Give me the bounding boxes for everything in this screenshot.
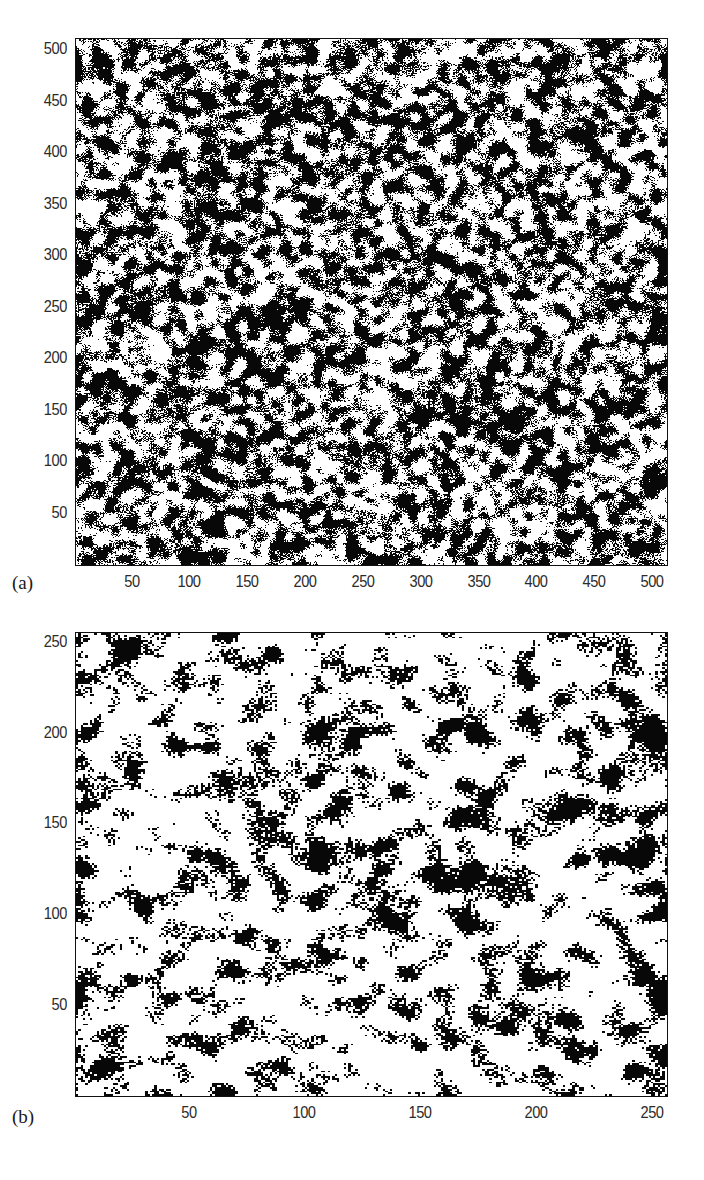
y-tick-label: 400	[44, 142, 67, 162]
x-tick-label: 150	[395, 1103, 447, 1123]
panel-label-b: (b)	[12, 1106, 34, 1128]
x-tick-label: 200	[279, 572, 331, 592]
panel-label-a: (a)	[12, 572, 33, 594]
noise-image-a	[75, 38, 668, 566]
x-tick-label: 350	[453, 572, 505, 592]
x-tick-label: 250	[626, 1103, 678, 1123]
y-tick-label: 200	[44, 348, 67, 368]
y-tick-label: 450	[44, 91, 67, 111]
panel-a: 5010015020025030035040045050050100150200…	[0, 0, 704, 610]
x-tick-label: 450	[568, 572, 620, 592]
x-tick-label: 250	[337, 572, 389, 592]
y-tick-label: 350	[44, 194, 67, 214]
x-tick-label: 300	[395, 572, 447, 592]
x-tick-label: 100	[279, 1103, 331, 1123]
x-tick-label: 50	[106, 572, 158, 592]
y-tick-label: 500	[44, 39, 67, 59]
noise-image-b	[75, 632, 668, 1097]
y-tick-label: 250	[44, 297, 67, 317]
y-tick-label: 200	[44, 723, 67, 743]
x-tick-label: 100	[164, 572, 216, 592]
x-tick-label: 50	[163, 1103, 215, 1123]
x-tick-label: 150	[222, 572, 274, 592]
y-tick-label: 150	[44, 400, 67, 420]
panel-b: 5010015020025050100150200250 (b)	[0, 610, 704, 1180]
y-tick-label: 50	[52, 503, 67, 523]
noise-canvas-b	[76, 633, 667, 1096]
y-tick-label: 100	[44, 904, 67, 924]
noise-canvas-a	[76, 39, 667, 565]
y-tick-label: 250	[44, 632, 67, 652]
x-tick-label: 500	[626, 572, 678, 592]
x-tick-label: 400	[511, 572, 563, 592]
y-tick-label: 50	[52, 995, 67, 1015]
y-tick-label: 100	[44, 451, 67, 471]
x-tick-label: 200	[510, 1103, 562, 1123]
y-tick-label: 150	[44, 813, 67, 833]
figure-root: 5010015020025030035040045050050100150200…	[0, 0, 704, 1180]
y-tick-label: 300	[44, 245, 67, 265]
